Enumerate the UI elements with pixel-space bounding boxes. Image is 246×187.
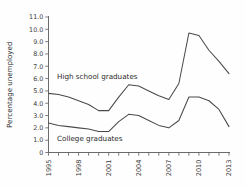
y-tick-label: 1.0 xyxy=(33,136,43,144)
y-tick-label: 8.0 xyxy=(33,50,43,58)
series-annotations: High school graduatesCollege graduates xyxy=(57,72,138,143)
x-axis: 1995199820012004200720102013 xyxy=(45,153,234,177)
series-label-high-school-graduates: High school graduates xyxy=(57,72,138,81)
data-series-group xyxy=(49,33,230,132)
chart-figure: 11.010.09.08.07.06.05.04.03.02.01.00 199… xyxy=(0,0,246,187)
x-tick-label: 2004 xyxy=(135,160,143,177)
y-axis-title-text: Percentage unemployed xyxy=(5,42,14,128)
y-tick-label: 4.0 xyxy=(33,100,43,108)
chart-canvas: 11.010.09.08.07.06.05.04.03.02.01.00 199… xyxy=(0,0,246,187)
x-tick-label: 2001 xyxy=(105,160,113,177)
y-tick-label: 5.0 xyxy=(33,87,43,95)
x-tick-label: 2007 xyxy=(165,160,173,177)
y-tick-label: 11.0 xyxy=(29,13,43,21)
y-tick-label: 9.0 xyxy=(33,38,43,46)
y-axis: 11.010.09.08.07.06.05.04.03.02.01.00 xyxy=(29,13,48,157)
y-tick-label: 10.0 xyxy=(29,26,43,34)
series-label-college-graduates: College graduates xyxy=(57,134,123,143)
y-tick-label: 2.0 xyxy=(33,124,43,132)
x-tick-label: 1995 xyxy=(45,160,53,177)
y-tick-label: 7.0 xyxy=(33,63,43,71)
caption-strip xyxy=(0,177,246,187)
y-axis-title: Percentage unemployed xyxy=(5,42,14,128)
x-tick-label: 1998 xyxy=(75,160,83,177)
y-tick-label: 6.0 xyxy=(33,75,43,83)
x-tick-label: 2013 xyxy=(225,160,233,177)
series-line-college-graduates xyxy=(49,97,230,131)
y-tick-label: 0 xyxy=(39,149,43,157)
line-chart: 11.010.09.08.07.06.05.04.03.02.01.00 199… xyxy=(0,0,246,187)
x-tick-label: 2010 xyxy=(195,160,203,177)
y-tick-label: 3.0 xyxy=(33,112,43,120)
